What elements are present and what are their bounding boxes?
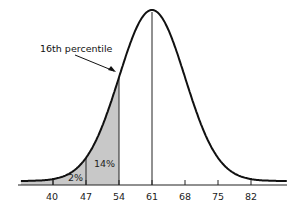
tick-label: 61: [146, 191, 158, 202]
tick-label: 68: [179, 191, 191, 202]
tick-label: 54: [113, 191, 125, 202]
normal-curve: [21, 10, 287, 181]
annotation-label: 16th percentile: [40, 43, 113, 54]
tick-label: 47: [80, 191, 92, 202]
pct-label-14: 14%: [94, 158, 115, 169]
x-tick-labels: 40 47 54 61 68 75 82: [46, 191, 257, 202]
normal-curve-chart: 16th percentile 2% 14% 40 47 54 61 68 75…: [0, 0, 300, 212]
annotation-arrow: [75, 55, 114, 71]
arrowhead-icon: [108, 66, 116, 72]
tick-label: 75: [212, 191, 224, 202]
pct-label-2: 2%: [68, 172, 83, 183]
tick-label: 82: [245, 191, 257, 202]
tick-label: 40: [46, 191, 58, 202]
